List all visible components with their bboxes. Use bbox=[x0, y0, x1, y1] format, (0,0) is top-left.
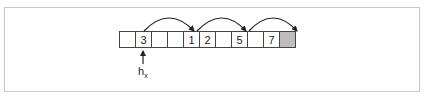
pointer-label: hx bbox=[138, 65, 148, 79]
probe-arc-1 bbox=[144, 18, 194, 31]
arrows-overlay bbox=[0, 0, 427, 99]
probe-arc-3 bbox=[249, 18, 297, 31]
probe-arc-2 bbox=[197, 18, 246, 31]
